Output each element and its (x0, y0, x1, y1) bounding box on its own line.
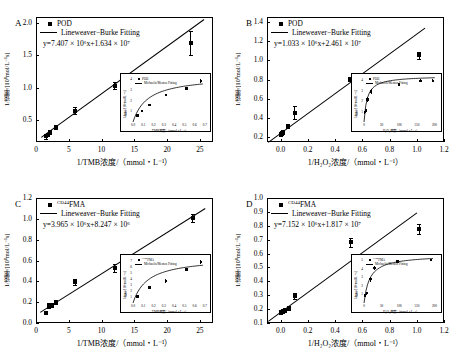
inset-data-point (398, 83, 400, 85)
inset-data-point (200, 80, 202, 82)
panel-d: D0.10.20.30.40.50.60.70.80.91.00.00.20.4… (231, 181, 462, 362)
inset-data-point (148, 104, 150, 106)
panel-c: C0.00.20.40.60.81.01.205101520251/速率/[10… (0, 181, 231, 362)
inset-data-point (432, 80, 434, 82)
inset-data-point (365, 109, 367, 111)
inset-data-point (185, 87, 187, 89)
inset-data-point (185, 268, 187, 270)
inset-data-point (366, 292, 368, 294)
panel-a: A0.51.01.52.005101520251/速率/[10⁸mol/L⁻¹s… (0, 0, 231, 181)
inset-data-point (430, 259, 432, 261)
inset-data-point (373, 267, 375, 269)
inset-data-point (419, 80, 421, 82)
inset-data-point (136, 114, 138, 116)
inset-fit-curve (231, 181, 462, 362)
inset-data-point (148, 286, 150, 288)
inset-data-point (366, 98, 368, 100)
inset-fit-curve (0, 0, 231, 181)
panel-b: B0.20.40.60.81.01.21.40.00.20.40.60.81.0… (231, 0, 462, 181)
inset-data-point (141, 110, 143, 112)
inset-data-point (396, 260, 398, 262)
inset-data-point (136, 295, 138, 297)
inset-data-point (165, 94, 167, 96)
figure-root: A0.51.01.52.005101520251/速率/[10⁸mol/L⁻¹s… (0, 0, 462, 362)
inset-data-point (370, 90, 372, 92)
inset-fit-curve (231, 0, 462, 181)
inset-data-point (369, 278, 371, 280)
inset-data-point (200, 261, 202, 263)
inset-fit-curve (0, 181, 231, 362)
inset-data-point (165, 280, 167, 282)
